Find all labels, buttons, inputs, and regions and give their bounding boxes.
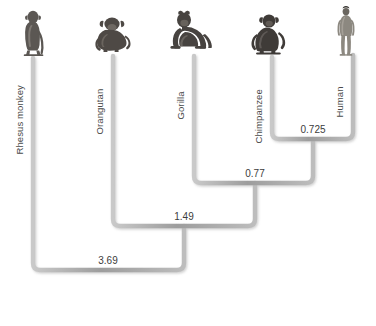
branch-clade-1: [113, 56, 255, 226]
taxon-label-gorilla: Gorilla: [176, 91, 186, 119]
chimpanzee-silhouette-icon: [248, 10, 294, 56]
taxon-label-chimpanzee: Chimpanzee: [254, 89, 264, 143]
taxon-label-human: Human: [335, 86, 345, 117]
human-silhouette-icon: [331, 4, 361, 58]
node-label-3: 0.725: [291, 125, 335, 135]
gorilla-silhouette-icon: [168, 8, 220, 56]
rhesus-monkey-silhouette-icon: [18, 8, 52, 60]
branch-clade-root: [33, 58, 184, 270]
node-label-2: 0.77: [233, 169, 277, 179]
taxon-label-rhesus-monkey: Rhesus monkey: [15, 85, 25, 154]
node-label-1: 1.49: [162, 212, 206, 222]
orangutan-silhouette-icon: [92, 10, 136, 54]
phylogenetic-tree-figure: Rhesus monkey Orangutan Gorilla Chimpanz…: [0, 0, 376, 326]
taxon-label-orangutan: Orangutan: [95, 89, 105, 135]
node-label-root: 3.69: [86, 256, 130, 266]
